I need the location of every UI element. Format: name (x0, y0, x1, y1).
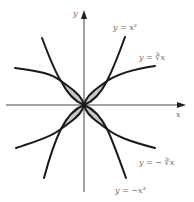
curve-label-neg-cube-root: y = − ∛x (139, 159, 174, 167)
y-axis-arrow-icon (81, 10, 87, 19)
curve-label-neg-x-cubed: y = −x³ (115, 187, 146, 195)
curve-neg-cube-root (15, 68, 155, 148)
curve-label-x-cubed: y = x² (113, 24, 137, 32)
x-axis-label: x (176, 111, 181, 119)
curve-label-cube-root: y = ∛x (139, 54, 165, 62)
curves (15, 37, 155, 178)
graph-canvas (0, 0, 194, 202)
y-axis-label: y (73, 10, 78, 18)
x-axis-arrow-icon (177, 102, 186, 108)
